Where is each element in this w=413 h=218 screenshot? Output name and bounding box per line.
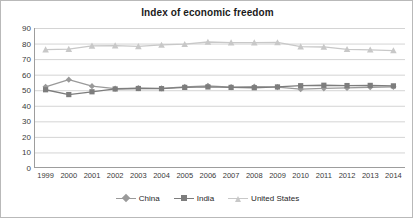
- y-axis-tick-90: 90: [5, 24, 31, 33]
- data-point-marker: [136, 86, 141, 91]
- legend-item-united-states[interactable]: United States: [228, 194, 299, 203]
- x-axis-tick-2005: 2005: [176, 171, 193, 180]
- data-point-marker: [391, 83, 396, 88]
- x-axis-tick-2012: 2012: [339, 171, 356, 180]
- data-point-marker: [113, 86, 118, 91]
- x-axis-tick-labels: 1999200020012002200320042005200620072008…: [34, 171, 405, 185]
- y-axis-tick-0: 0: [5, 164, 31, 173]
- y-axis-tick-20: 20: [5, 132, 31, 141]
- legend-label: China: [139, 194, 160, 203]
- y-axis-tick-50: 50: [5, 86, 31, 95]
- x-axis-tick-2013: 2013: [362, 171, 379, 180]
- data-point-marker: [205, 84, 210, 89]
- legend-label: India: [197, 194, 214, 203]
- data-point-marker: [321, 83, 326, 88]
- data-point-marker: [228, 85, 233, 90]
- chart-legend: ChinaIndiaUnited States: [1, 194, 413, 203]
- data-point-marker: [89, 89, 94, 94]
- y-axis-tick-80: 80: [5, 39, 31, 48]
- y-axis-tick-10: 10: [5, 148, 31, 157]
- data-point-marker: [66, 92, 71, 97]
- legend-swatch-triangle-icon: [228, 194, 248, 203]
- chart-container: Index of economic freedom 01020304050607…: [0, 0, 413, 218]
- x-axis-tick-2007: 2007: [223, 171, 240, 180]
- plot-svg: [34, 28, 405, 168]
- x-axis-tick-1999: 1999: [37, 171, 54, 180]
- data-point-marker: [275, 84, 280, 89]
- data-point-marker: [368, 83, 373, 88]
- x-axis-tick-2009: 2009: [269, 171, 286, 180]
- data-point-marker: [159, 86, 164, 91]
- legend-swatch-square-icon: [174, 194, 194, 203]
- data-point-marker: [344, 83, 349, 88]
- series-line: [46, 42, 394, 51]
- series-india: [43, 83, 396, 98]
- legend-swatch-diamond-icon: [116, 194, 136, 203]
- x-axis-tick-2011: 2011: [316, 171, 332, 180]
- y-axis-tick-40: 40: [5, 101, 31, 110]
- series-china: [42, 77, 396, 93]
- x-axis-tick-2008: 2008: [246, 171, 263, 180]
- data-point-marker: [66, 77, 72, 83]
- legend-label: United States: [251, 194, 299, 203]
- plot-area: [34, 28, 405, 168]
- data-point-marker: [252, 85, 257, 90]
- y-axis-tick-30: 30: [5, 117, 31, 126]
- y-axis-tick-labels: 0102030405060708090: [1, 28, 31, 168]
- legend-item-india[interactable]: India: [174, 194, 214, 203]
- series-united-states: [42, 39, 396, 54]
- chart-title: Index of economic freedom: [1, 7, 413, 18]
- data-point-marker: [182, 85, 187, 90]
- x-axis-tick-2000: 2000: [60, 171, 77, 180]
- x-axis-tick-2001: 2001: [84, 171, 101, 180]
- x-axis-tick-2010: 2010: [292, 171, 309, 180]
- data-point-marker: [43, 87, 48, 92]
- data-point-marker: [298, 83, 303, 88]
- x-axis-tick-2006: 2006: [200, 171, 217, 180]
- y-axis-tick-60: 60: [5, 70, 31, 79]
- x-axis-tick-2002: 2002: [107, 171, 124, 180]
- data-point-marker: [89, 83, 95, 89]
- legend-item-china[interactable]: China: [116, 194, 160, 203]
- y-axis-tick-70: 70: [5, 55, 31, 64]
- x-axis-tick-2014: 2014: [385, 171, 402, 180]
- x-axis-tick-2004: 2004: [153, 171, 170, 180]
- x-axis-tick-2003: 2003: [130, 171, 147, 180]
